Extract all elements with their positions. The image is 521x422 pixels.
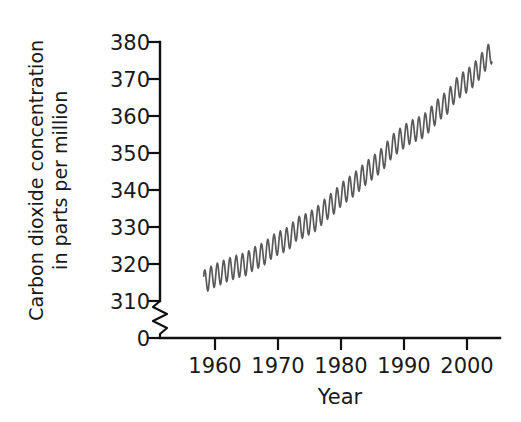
- x-tick-label-2000: 2000: [440, 354, 493, 378]
- co2-data-line: [204, 44, 492, 291]
- chart-plot-area: 380 370 360 350 340 330 320 310 0: [0, 0, 521, 422]
- y-tick-label-380: 380: [110, 31, 150, 55]
- y-tick-label-330: 330: [110, 216, 150, 240]
- y-tick-labels: 380 370 360 350 340 330 320 310 0: [110, 31, 150, 351]
- x-tick-label-1970: 1970: [251, 354, 304, 378]
- y-tick-label-350: 350: [110, 142, 150, 166]
- y-tick-label-310: 310: [110, 290, 150, 314]
- y-tick-label-370: 370: [110, 68, 150, 92]
- x-tick-label-1990: 1990: [377, 354, 430, 378]
- y-axis-break-zigzag-icon: [153, 301, 167, 338]
- y-tick-label-0: 0: [137, 327, 150, 351]
- x-axis-ticks: [215, 338, 467, 350]
- y-tick-label-360: 360: [110, 105, 150, 129]
- x-axis-title: Year: [317, 385, 363, 409]
- y-tick-label-320: 320: [110, 253, 150, 277]
- x-tick-labels: 1960 1970 1980 1990 2000: [188, 354, 493, 378]
- y-tick-label-340: 340: [110, 179, 150, 203]
- chart-figure: Carbon dioxide concentration in parts pe…: [0, 0, 521, 422]
- x-tick-label-1960: 1960: [188, 354, 241, 378]
- x-tick-label-1980: 1980: [314, 354, 367, 378]
